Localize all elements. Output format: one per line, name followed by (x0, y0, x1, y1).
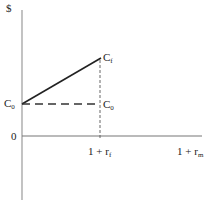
cf-label: Cf (103, 52, 113, 67)
x-tick-rm-label: 1 + rm (177, 146, 203, 161)
cf-line (22, 58, 101, 104)
x-tick-rf-label: 1 + rf (88, 146, 111, 161)
origin-label: 0 (11, 131, 17, 142)
c0-right-label: C0 (103, 99, 114, 114)
c0-left-label: C0 (4, 98, 15, 113)
y-axis-label: $ (6, 3, 12, 14)
